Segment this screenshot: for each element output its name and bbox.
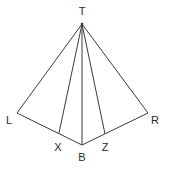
apex-point-T	[81, 23, 84, 26]
label-L: L	[6, 114, 12, 126]
segment-LB	[17, 113, 82, 145]
segment-BR	[82, 113, 148, 145]
label-R: R	[151, 114, 159, 126]
pyramid-diagram: T L X B Z R	[0, 0, 169, 177]
label-T: T	[79, 5, 86, 17]
segment-TZ	[82, 24, 105, 134]
label-Z: Z	[102, 141, 109, 153]
segment-TR	[82, 24, 148, 113]
label-X: X	[54, 141, 62, 153]
edges	[17, 24, 148, 145]
label-B: B	[78, 151, 85, 163]
